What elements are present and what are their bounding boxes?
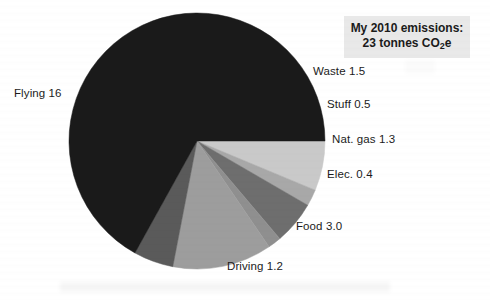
pie-chart-figure: Flying 16 Waste 1.5 Stuff 0.5 Nat. gas 1… [0,0,490,300]
pie-label-waste: Waste 1.5 [313,66,365,78]
pie-label-flying: Flying 16 [14,88,62,100]
summary-subscript: 2 [440,41,445,51]
pie-label-nat-gas: Nat. gas 1.3 [332,134,395,146]
summary-suffix: e [445,36,452,50]
summary-line-2: 23 tonnes CO2e [348,36,466,52]
pie-slice-group [69,13,325,269]
pie-label-driving: Driving 1.2 [227,261,283,273]
pie-label-food: Food 3.0 [296,221,342,233]
emissions-summary-box: My 2010 emissions: 23 tonnes CO2e [344,16,470,58]
pie-label-stuff: Stuff 0.5 [327,99,371,111]
summary-total-text: 23 tonnes CO [362,36,439,50]
pie-label-elec: Elec. 0.4 [327,169,373,181]
summary-line-1: My 2010 emissions: [348,21,466,36]
